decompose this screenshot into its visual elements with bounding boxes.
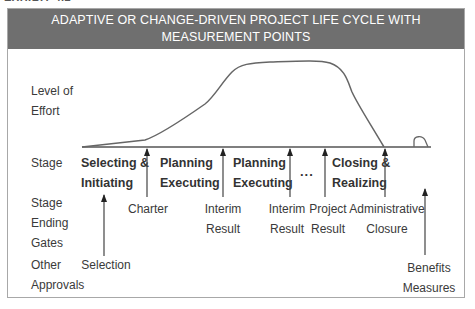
effort-curve: [82, 61, 384, 147]
lifecycle-diagram: [0, 0, 475, 309]
benefits-bump: [414, 137, 428, 147]
